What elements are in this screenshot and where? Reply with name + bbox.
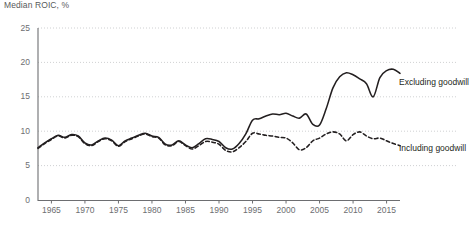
gridlines (38, 28, 456, 166)
series-label-including-goodwill: Including goodwill (399, 143, 466, 153)
axis-lines (38, 28, 400, 201)
chart-container: Median ROIC, % 0510152025 19651970197519… (0, 0, 470, 230)
data-series-layer (38, 69, 400, 152)
series-line-excluding-goodwill (38, 69, 400, 149)
plot-area (0, 0, 470, 230)
series-label-excluding-goodwill: Excluding goodwill (399, 77, 469, 87)
